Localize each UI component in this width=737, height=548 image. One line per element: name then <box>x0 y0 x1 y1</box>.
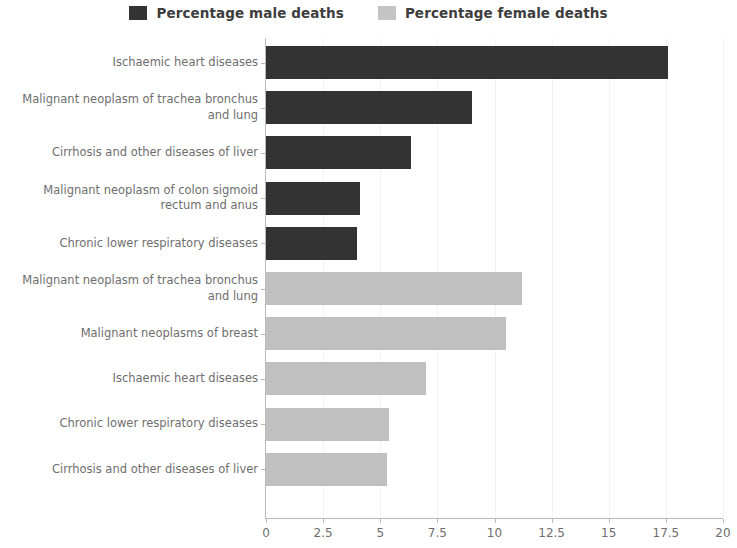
x-tick-mark <box>723 519 724 523</box>
y-tick-mark <box>261 289 265 290</box>
chart-legend: Percentage male deaths Percentage female… <box>0 0 737 26</box>
bar-male[interactable] <box>266 46 668 79</box>
x-tick-label: 2.5 <box>293 526 353 540</box>
y-tick-mark <box>261 469 265 470</box>
legend-swatch-female-icon <box>378 6 396 20</box>
gridline <box>552 38 553 518</box>
bar-male[interactable] <box>266 182 360 215</box>
y-tick-mark <box>261 63 265 64</box>
y-tick-mark <box>261 424 265 425</box>
legend-label-male: Percentage male deaths <box>156 5 343 21</box>
y-axis-category-label: Ischaemic heart diseases <box>0 362 258 395</box>
y-axis-category-label: Chronic lower respiratory diseases <box>0 408 258 441</box>
x-tick-label: 17.5 <box>636 526 696 540</box>
y-tick-mark <box>261 243 265 244</box>
bar-female[interactable] <box>266 362 426 395</box>
y-tick-mark <box>261 198 265 199</box>
legend-swatch-male-icon <box>129 6 147 20</box>
legend-label-female: Percentage female deaths <box>405 5 608 21</box>
x-tick-mark <box>666 519 667 523</box>
legend-entry-female: Percentage female deaths <box>378 5 608 21</box>
gridline <box>666 38 667 518</box>
x-tick-label: 20 <box>693 526 737 540</box>
y-axis-category-label: Cirrhosis and other diseases of liver <box>0 453 258 486</box>
x-tick-mark <box>609 519 610 523</box>
x-tick-mark <box>437 519 438 523</box>
y-axis-category-label: Malignant neoplasms of breast <box>0 317 258 350</box>
bar-male[interactable] <box>266 227 357 260</box>
x-tick-mark <box>495 519 496 523</box>
y-axis-category-label: Cirrhosis and other diseases of liver <box>0 136 258 169</box>
y-axis-category-label: Malignant neoplasm of trachea bronchus a… <box>0 91 258 124</box>
gridline <box>609 38 610 518</box>
x-tick-label: 5 <box>350 526 410 540</box>
y-tick-mark <box>261 108 265 109</box>
y-axis-category-label: Ischaemic heart diseases <box>0 46 258 79</box>
x-tick-label: 0 <box>236 526 296 540</box>
x-tick-mark <box>323 519 324 523</box>
bar-female[interactable] <box>266 408 389 441</box>
y-axis-category-label: Chronic lower respiratory diseases <box>0 227 258 260</box>
y-tick-mark <box>261 153 265 154</box>
bar-male[interactable] <box>266 91 472 124</box>
y-tick-mark <box>261 379 265 380</box>
x-tick-mark <box>266 519 267 523</box>
gridline <box>723 38 724 518</box>
x-tick-label: 10 <box>465 526 525 540</box>
bar-male[interactable] <box>266 136 411 169</box>
y-axis-category-label: Malignant neoplasm of colon sigmoid rect… <box>0 182 258 215</box>
bar-female[interactable] <box>266 453 387 486</box>
x-tick-label: 12.5 <box>522 526 582 540</box>
bar-female[interactable] <box>266 317 506 350</box>
y-tick-mark <box>261 334 265 335</box>
x-tick-label: 15 <box>579 526 639 540</box>
y-axis-category-label: Malignant neoplasm of trachea bronchus a… <box>0 272 258 305</box>
legend-entry-male: Percentage male deaths <box>129 5 343 21</box>
bar-female[interactable] <box>266 272 522 305</box>
x-tick-label: 7.5 <box>407 526 467 540</box>
x-tick-mark <box>380 519 381 523</box>
x-tick-mark <box>552 519 553 523</box>
